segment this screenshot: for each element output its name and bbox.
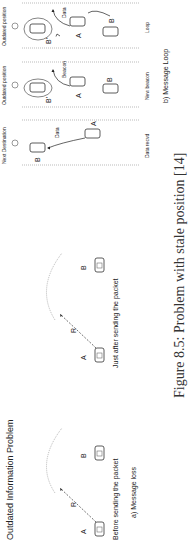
marker-label: Outdated position — [2, 65, 7, 105]
marker-label: Outdated position — [2, 6, 7, 46]
node-label: A — [80, 355, 87, 360]
panel-label: b) Message Loop — [162, 49, 169, 103]
scene-caption: New beacon — [145, 72, 150, 100]
panel-label: a) Message loss — [130, 467, 137, 518]
scene-caption: Just after sending the packet — [112, 279, 119, 369]
range-label: R — [70, 328, 77, 333]
node-label: B — [80, 265, 87, 270]
arrow-label: Data — [62, 7, 67, 18]
figure-caption: Figure 8.5: Problem with stale position … — [172, 153, 188, 398]
scene-caption: Before sending the packet — [112, 459, 119, 540]
scene-caption: Loop — [145, 22, 150, 33]
node-label: B — [106, 77, 113, 82]
car-icon — [95, 258, 104, 272]
marker-label: Next Destination — [2, 124, 7, 164]
node-label: B' — [45, 38, 52, 44]
car-icon — [95, 348, 104, 362]
figure-title: Outdated Information Problem — [5, 419, 15, 540]
figure: Outdated Information Problem A R B Befor… — [0, 0, 194, 548]
node-label: A — [90, 121, 97, 126]
arrow-label: Beacon — [62, 61, 67, 78]
node-label: A — [80, 529, 87, 534]
node-label: B' — [45, 97, 52, 103]
arrow-label: Data — [55, 127, 60, 138]
node-label: B — [80, 453, 87, 458]
car-icon — [95, 434, 104, 448]
car-icon — [95, 522, 104, 536]
node-label: B — [34, 157, 41, 162]
node-label: A — [75, 93, 82, 98]
range-label: R — [70, 502, 77, 507]
scene-caption: Data recvd — [145, 134, 150, 158]
node-label: B — [108, 18, 115, 23]
node-label: A — [75, 33, 82, 38]
